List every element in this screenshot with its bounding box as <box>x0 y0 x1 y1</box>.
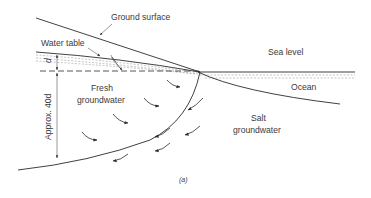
d-label: d <box>43 58 53 63</box>
sea-level-label: Sea level <box>268 47 303 57</box>
seawater-intrusion-diagram: Ground surface Water table Sea level Oce… <box>0 0 371 198</box>
ground-surface-label: Ground surface <box>111 12 170 22</box>
fresh-groundwater-label-1: Fresh <box>91 83 113 93</box>
ocean-label: Ocean <box>291 82 317 92</box>
salt-groundwater-label-1: Salt <box>251 113 266 123</box>
figure-caption: (a) <box>179 176 188 184</box>
ocean-floor-line <box>198 72 340 104</box>
leader-lines <box>88 24 122 70</box>
salt-groundwater-label-2: groundwater <box>233 125 281 135</box>
depth-label: Approx. 40d <box>43 93 53 140</box>
salt-flow-arrows <box>113 98 203 161</box>
fresh-groundwater-label-2: groundwater <box>77 95 125 105</box>
sea-level-line <box>198 72 355 78</box>
water-table-label: Water table <box>41 38 85 48</box>
